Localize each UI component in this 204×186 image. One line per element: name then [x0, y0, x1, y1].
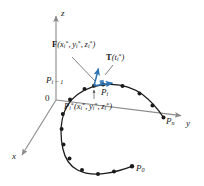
partition-marker [151, 104, 155, 108]
partition-marker [96, 172, 100, 176]
x-axis-line [22, 100, 56, 155]
partition-marker [112, 170, 116, 174]
sample-paren-close: ) [109, 101, 112, 111]
partition-marker [162, 116, 166, 120]
tangent-paren-close: ) [122, 52, 125, 62]
point-0-subscript: 0 [142, 167, 145, 173]
line-integral-diagram: z y x 0 F(xi*, yi*, zi*) T(ti*) Pi − 1 P… [0, 0, 204, 186]
curve-path [61, 84, 163, 174]
paren-close: ) [93, 39, 96, 49]
point-i-minus-1-label: Pi − 1 [46, 76, 63, 85]
vector-angle-marker [100, 80, 105, 85]
point-n-subscript: n [172, 120, 175, 126]
point-0-label: P0 [136, 164, 145, 173]
partition-marker [62, 143, 66, 147]
partition-marker [80, 168, 84, 172]
partition-marker [61, 112, 65, 116]
comma-2: , [81, 39, 83, 49]
point-i-subscript: i [107, 91, 109, 97]
tangent-label-leader [105, 65, 113, 75]
sample-comma-2: , [97, 101, 99, 111]
partition-marker [60, 127, 64, 131]
point-i-label: Pi [101, 88, 108, 97]
space-curve [61, 84, 163, 174]
force-vector-arrow [94, 69, 99, 86]
partition-marker [121, 84, 125, 88]
force-label-leader [72, 57, 95, 81]
vector-group [94, 69, 113, 86]
comma-1: , [69, 39, 71, 49]
y-axis-label: y [186, 119, 190, 128]
partition-marker [138, 92, 142, 96]
z-axis-label: z [61, 9, 65, 18]
sample-comma-1: , [85, 101, 87, 111]
partition-marker [68, 157, 72, 161]
partition-marker-pi-minus-1 [83, 87, 87, 91]
point-i-minus-1-subscript: i − 1 [52, 79, 64, 85]
tangent-vector-label: T(ti*) [106, 53, 124, 63]
force-vector-label: F(xi*, yi*, zi*) [52, 40, 95, 50]
x-axis-label: x [12, 152, 16, 161]
origin-label: 0 [45, 94, 50, 103]
sample-point-label: Pi*(xi*, yi*, zi*) [64, 102, 112, 112]
partition-marker-p0 [130, 164, 134, 168]
point-n-label: Pn [166, 117, 175, 126]
